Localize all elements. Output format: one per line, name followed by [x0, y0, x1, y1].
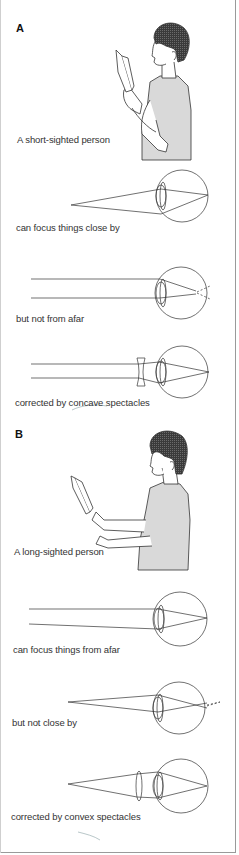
eye-diagram-b2: [68, 682, 220, 734]
eyeball-icon: [156, 170, 208, 222]
eye-diagram-a3: [31, 346, 209, 398]
eye-diagram-a2: [31, 267, 210, 319]
panel-a2-caption: but not from afar: [16, 313, 84, 324]
concave-lens-icon: [137, 358, 145, 386]
eyeball-icon: [155, 267, 207, 319]
panel-a1-caption: can focus things close by: [16, 222, 120, 233]
panel-b2-caption: but not close by: [12, 717, 77, 728]
eyeball-icon: [153, 592, 207, 646]
short-sighted-person-illustration: [116, 23, 191, 160]
eyeball-icon: [156, 346, 208, 398]
eye-diagram-b3: [68, 759, 208, 813]
eye-diagram-a1: [71, 170, 208, 222]
eyeball-icon: [154, 759, 208, 813]
person-b-caption: A long-sighted person: [14, 546, 104, 557]
section-a-label: A: [16, 22, 24, 34]
panel-b1-caption: can focus things from afar: [13, 644, 120, 655]
section-b-label: B: [15, 428, 23, 440]
convex-lens-icon: [136, 771, 142, 801]
eye-diagram-b1: [29, 592, 207, 646]
panel-b3-caption: corrected by convex spectacles: [11, 811, 141, 822]
pencil-mark: [78, 832, 100, 840]
panel-a3-caption: corrected by concave spectacles: [15, 397, 150, 408]
person-a-caption: A short-sighted person: [17, 134, 110, 145]
